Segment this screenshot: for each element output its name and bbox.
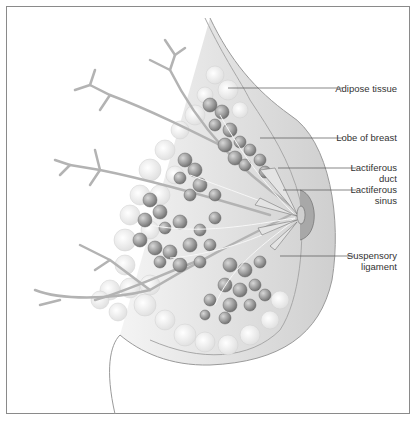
breast-anatomy-illustration [0,0,416,423]
label-adipose-tissue: Adipose tissue [335,84,397,95]
label-line: Suspensory [347,251,397,262]
label-line: Lobe of breast [336,132,397,143]
label-line: sinus [351,196,397,207]
label-lactiferous-sinus: Lactiferous sinus [351,185,397,206]
label-lobe-of-breast: Lobe of breast [336,133,397,144]
label-suspensory-ligament: Suspensory ligament [347,251,397,272]
label-line: Adipose tissue [335,83,397,94]
label-line: Lactiferous [351,163,397,174]
label-line: duct [351,174,397,185]
label-line: Lactiferous [351,185,397,196]
label-line: ligament [347,262,397,273]
label-lactiferous-duct: Lactiferous duct [351,163,397,184]
